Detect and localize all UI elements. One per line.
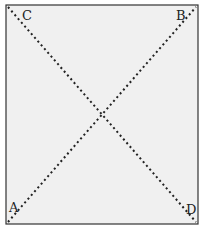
label-d: D	[186, 202, 196, 217]
label-c: C	[22, 8, 32, 23]
label-a: A	[8, 200, 19, 215]
diagram: C B A D	[0, 0, 204, 229]
label-b: B	[176, 8, 186, 23]
